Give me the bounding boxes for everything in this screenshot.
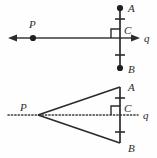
top-label-b: B (128, 63, 135, 75)
top-label-p: P (28, 18, 36, 30)
bottom-label-q: q (143, 109, 149, 121)
bottom-panel: P A C B q (8, 81, 149, 154)
top-label-a: A (127, 2, 135, 14)
top-right-angle-marker (111, 29, 120, 38)
geometry-figure: P A C B q P A C B (0, 0, 157, 158)
top-line-q-left-arrowhead (8, 34, 17, 41)
top-point-a-dot (117, 5, 123, 11)
bottom-right-angle-marker (111, 106, 120, 115)
top-point-b-dot (117, 65, 123, 71)
bottom-label-c: C (124, 102, 132, 114)
geometry-diagram-svg: P A C B q P A C B (0, 0, 157, 158)
top-label-q: q (144, 32, 150, 44)
top-panel: P A C B q (8, 2, 150, 75)
bottom-side-pb (38, 115, 120, 143)
bottom-label-p: P (19, 101, 27, 113)
top-line-q-right-arrowhead (131, 34, 140, 41)
bottom-label-a: A (127, 81, 135, 93)
top-point-p-dot (30, 35, 36, 41)
bottom-label-b: B (128, 142, 135, 154)
top-label-c: C (124, 24, 132, 36)
bottom-side-pa (38, 87, 120, 115)
